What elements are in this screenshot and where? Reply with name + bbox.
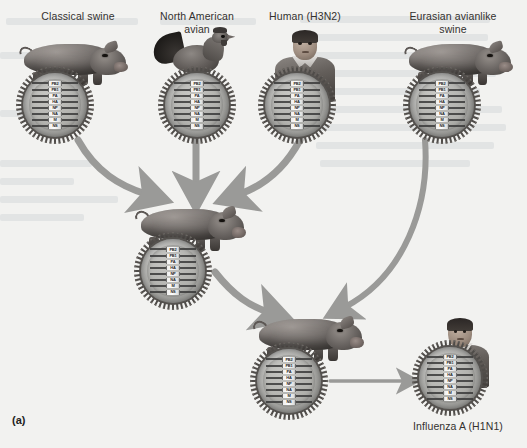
gene-segment-list: PB2 PB1 PA HA NP NA M NS bbox=[419, 79, 466, 131]
gene-segment: NA bbox=[266, 388, 313, 392]
gene-segment: PA bbox=[419, 94, 466, 98]
gene-segment: NS bbox=[419, 125, 466, 129]
virion-north-american-avian: PB2 PB1 PA HA NP NA M NS bbox=[158, 66, 236, 144]
gene-segment: NS bbox=[150, 291, 197, 295]
gene-segment: HA bbox=[266, 376, 313, 380]
gene-segment: HA bbox=[174, 100, 221, 104]
gene-segment-list: PB2 PB1 PA HA NP NA M NS bbox=[32, 79, 79, 131]
gene-segment: PB1 bbox=[174, 88, 221, 92]
gene-segment: NS bbox=[174, 125, 221, 129]
gene-segment: PB2 bbox=[150, 248, 197, 252]
gene-segment: NP bbox=[174, 106, 221, 110]
arrow-human-to-swine bbox=[240, 140, 300, 194]
gene-segment: PA bbox=[266, 370, 313, 374]
virion-triple-reassortant-swine: PB2 PB1 PA HA NP NA M NS bbox=[134, 232, 212, 310]
gene-segment-list: PB2 PB1 PA HA NP NA M NS bbox=[274, 79, 321, 131]
gene-segment: NS bbox=[274, 125, 321, 129]
gene-segment: NP bbox=[32, 106, 79, 110]
gene-segment: PB2 bbox=[266, 358, 313, 362]
gene-segment: NA bbox=[274, 112, 321, 116]
gene-segment: PB2 bbox=[174, 82, 221, 86]
virion-classical-swine: PB2 PB1 PA HA NP NA M NS bbox=[16, 66, 94, 144]
gene-segment: M bbox=[150, 284, 197, 288]
gene-segment-list: PB2 PB1 PA HA NP NA M NS bbox=[427, 353, 473, 403]
virion-eurasian-avianlike-swine: PB2 PB1 PA HA NP NA M NS bbox=[403, 66, 481, 144]
gene-segment: PB1 bbox=[427, 361, 473, 365]
panel-tag: (a) bbox=[12, 414, 25, 426]
gene-segment: NS bbox=[32, 125, 79, 129]
gene-segment-list: PB2 PB1 PA HA NP NA M NS bbox=[174, 79, 221, 131]
gene-segment: NA bbox=[419, 112, 466, 116]
source-label-human-h3n2: Human (H3N2) bbox=[252, 10, 358, 23]
gene-segment: NA bbox=[427, 385, 473, 389]
source-label-classical-swine: Classical swine bbox=[18, 10, 138, 23]
gene-segment: PB2 bbox=[419, 82, 466, 86]
gene-segment: NA bbox=[32, 112, 79, 116]
gene-segment: NS bbox=[266, 401, 313, 405]
gene-segment: PB2 bbox=[32, 82, 79, 86]
gene-segment: PB1 bbox=[32, 88, 79, 92]
gene-segment: NA bbox=[174, 112, 221, 116]
virion-human-h3n2: PB2 PB1 PA HA NP NA M NS bbox=[258, 66, 336, 144]
gene-segment: HA bbox=[427, 373, 473, 377]
arrow-eurasian-to-reassortant-swine bbox=[345, 140, 426, 307]
gene-segment: PA bbox=[274, 94, 321, 98]
gene-segment: PB1 bbox=[150, 254, 197, 258]
gene-segment: HA bbox=[419, 100, 466, 104]
gene-segment: NP bbox=[419, 106, 466, 110]
gene-segment: M bbox=[427, 391, 473, 395]
gene-segment: PB2 bbox=[274, 82, 321, 86]
gene-segment: PA bbox=[427, 367, 473, 371]
gene-segment: PA bbox=[150, 260, 197, 264]
gene-segment: M bbox=[274, 118, 321, 122]
gene-segment-list: PB2 PB1 PA HA NP NA M NS bbox=[266, 355, 313, 407]
gene-segment: HA bbox=[32, 100, 79, 104]
diagram-canvas: Classical swine PB2 PB1 PA HA NP NA M NS… bbox=[0, 0, 527, 448]
gene-segment: M bbox=[266, 394, 313, 398]
virion-influenza-a-h1n1: PB2 PB1 PA HA NP NA M NS bbox=[412, 340, 488, 416]
gene-segment: PA bbox=[32, 94, 79, 98]
gene-segment-list: PB2 PB1 PA HA NP NA M NS bbox=[150, 245, 197, 297]
gene-segment: NS bbox=[427, 397, 473, 401]
result-label-influenza-a-h1n1: Influenza A (H1N1) bbox=[398, 420, 518, 433]
virion-reassortant-swine: PB2 PB1 PA HA NP NA M NS bbox=[250, 342, 328, 420]
gene-segment: NP bbox=[266, 382, 313, 386]
gene-segment: NP bbox=[427, 379, 473, 383]
gene-segment: NA bbox=[150, 278, 197, 282]
gene-segment: HA bbox=[150, 266, 197, 270]
gene-segment: PB1 bbox=[274, 88, 321, 92]
gene-segment: PA bbox=[174, 94, 221, 98]
gene-segment: M bbox=[174, 118, 221, 122]
gene-segment: PB1 bbox=[419, 88, 466, 92]
gene-segment: PB1 bbox=[266, 364, 313, 368]
gene-segment: NP bbox=[150, 272, 197, 276]
gene-segment: M bbox=[32, 118, 79, 122]
gene-segment: M bbox=[419, 118, 466, 122]
gene-segment: NP bbox=[274, 106, 321, 110]
arrow-classical-swine-to-swine bbox=[78, 140, 146, 194]
gene-segment: HA bbox=[274, 100, 321, 104]
gene-segment: PB2 bbox=[427, 355, 473, 359]
